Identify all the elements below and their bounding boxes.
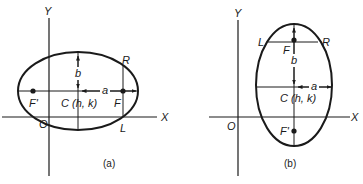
- focus-point-f: [120, 88, 125, 93]
- y-axis-label: Y: [44, 5, 52, 17]
- latus-left-label: L: [258, 36, 264, 48]
- focus-label: F: [114, 97, 122, 109]
- focus2-label: F': [280, 125, 290, 137]
- x-axis-label: X: [350, 111, 359, 123]
- latus-top-label: R: [122, 54, 130, 66]
- focus-point-f2: [291, 128, 296, 133]
- semi-minor-label: a: [311, 80, 317, 92]
- origin-label: O: [39, 118, 48, 130]
- focus2-label: F': [29, 97, 39, 109]
- semi-minor-label: b: [75, 67, 81, 79]
- origin-label: O: [227, 120, 236, 132]
- ellipse-diagram: Y X O R L F' F C (h, k) a b (a) Y X O L …: [0, 0, 363, 184]
- latus-right-label: R: [322, 36, 330, 48]
- x-axis-label: X: [160, 111, 169, 123]
- y-axis-label: Y: [234, 7, 242, 19]
- latus-bottom-label: L: [120, 122, 126, 134]
- focus-point-f: [291, 37, 296, 42]
- center-label: C (h, k): [280, 92, 316, 104]
- caption-a: (a): [103, 158, 115, 169]
- center-label: C (h, k): [61, 97, 97, 109]
- focus-point-f2: [30, 88, 35, 93]
- semi-major-label: a: [102, 84, 108, 96]
- semi-major-label: b: [291, 54, 297, 66]
- caption-b: (b): [284, 158, 296, 169]
